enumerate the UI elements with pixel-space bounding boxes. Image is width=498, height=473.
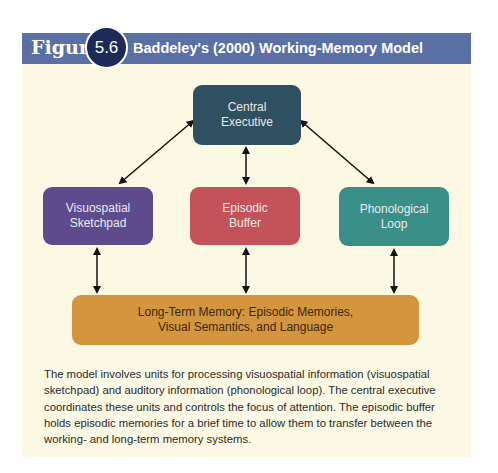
central-executive-node: CentralExecutive bbox=[193, 85, 301, 145]
episodic-buffer-node: EpisodicBuffer bbox=[190, 187, 300, 245]
phonological-loop-node: PhonologicalLoop bbox=[339, 187, 449, 246]
long-term-memory-node: Long-Term Memory: Episodic Memories,Visu… bbox=[72, 295, 419, 345]
arrow-central-phono bbox=[301, 121, 373, 183]
visuospatial-sketchpad-node: VisuospatialSketchpad bbox=[43, 187, 153, 245]
arrow-central-visuo bbox=[120, 121, 193, 183]
figure-caption: The model involves units for processing … bbox=[44, 366, 464, 447]
